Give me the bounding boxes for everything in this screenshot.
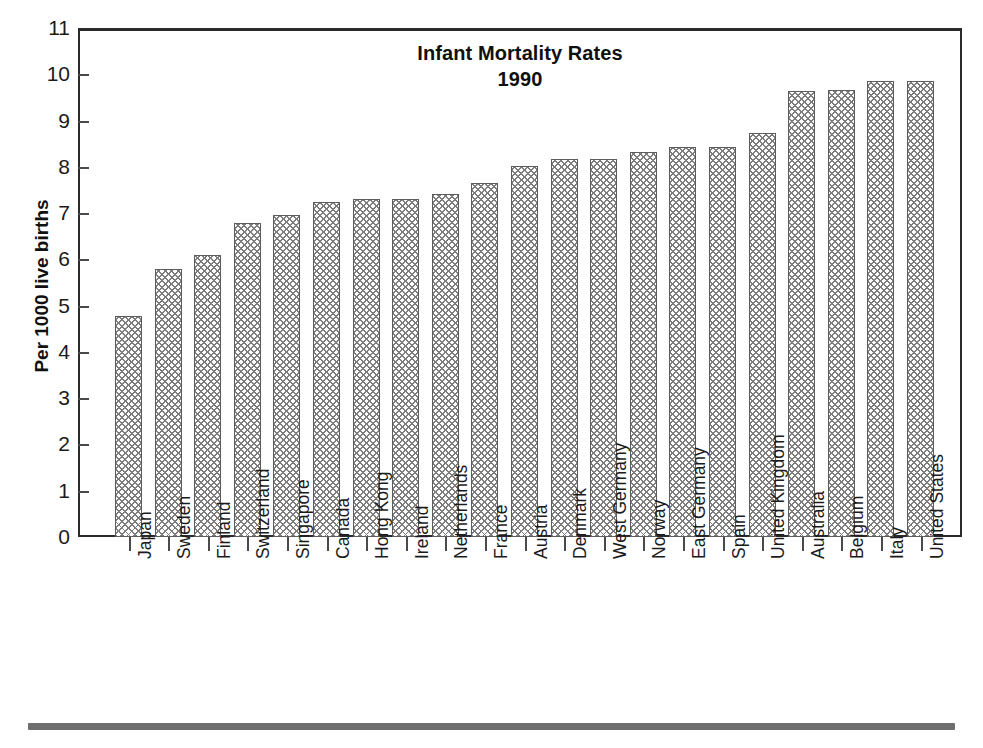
x-tick-label: Ireland <box>413 505 431 559</box>
x-tick-mark <box>643 537 645 551</box>
bar <box>867 81 894 537</box>
x-tick-mark <box>802 537 804 551</box>
x-tick-label: Singapore <box>294 479 312 559</box>
x-tick-label: Spain <box>730 514 748 559</box>
x-tick-mark <box>208 537 210 551</box>
x-tick-label: West Germany <box>611 443 629 559</box>
x-tick-mark <box>129 537 131 551</box>
footer-rule <box>28 723 955 730</box>
x-tick-label: Japan <box>136 511 154 559</box>
infant-mortality-figure: Infant Mortality Rates 1990 Per 1000 liv… <box>0 0 983 748</box>
bar <box>828 90 855 537</box>
x-tick-label: Belgium <box>848 496 866 559</box>
x-tick-label: East Germany <box>690 447 708 559</box>
x-tick-mark <box>168 537 170 551</box>
x-tick-label: Finland <box>215 502 233 559</box>
x-tick-mark <box>247 537 249 551</box>
bars-layer <box>0 0 983 748</box>
x-tick-mark <box>683 537 685 551</box>
x-tick-mark <box>287 537 289 551</box>
bar <box>471 183 498 537</box>
bar <box>709 147 736 537</box>
x-tick-label: Italy <box>888 527 906 559</box>
x-tick-mark <box>564 537 566 551</box>
x-tick-mark <box>406 537 408 551</box>
bar <box>788 91 815 537</box>
x-tick-mark <box>921 537 923 551</box>
x-tick-mark <box>327 537 329 551</box>
x-tick-label: Canada <box>334 498 352 559</box>
x-tick-mark <box>445 537 447 551</box>
x-tick-label: Australia <box>809 491 827 559</box>
bar <box>115 316 142 537</box>
x-tick-label: Netherlands <box>452 465 470 559</box>
bar <box>511 166 538 537</box>
x-tick-mark <box>723 537 725 551</box>
x-tick-mark <box>525 537 527 551</box>
x-tick-label: Norway <box>650 500 668 559</box>
x-tick-label: France <box>492 505 510 559</box>
bar <box>392 199 419 537</box>
x-tick-mark <box>366 537 368 551</box>
x-tick-mark <box>604 537 606 551</box>
x-tick-label: Denmark <box>571 488 589 559</box>
x-tick-label: United States <box>928 454 946 559</box>
bar <box>630 152 657 537</box>
x-tick-label: Sweden <box>175 496 193 559</box>
bar <box>551 159 578 537</box>
x-tick-mark <box>762 537 764 551</box>
x-tick-label: Austria <box>532 505 550 559</box>
x-tick-mark <box>841 537 843 551</box>
x-tick-mark <box>881 537 883 551</box>
x-tick-label: Hong Kong <box>373 471 391 559</box>
x-tick-label: Switzerland <box>254 469 272 559</box>
bar <box>313 202 340 537</box>
x-tick-mark <box>485 537 487 551</box>
bar <box>194 255 221 537</box>
x-tick-label: United Kingdom <box>769 434 787 559</box>
